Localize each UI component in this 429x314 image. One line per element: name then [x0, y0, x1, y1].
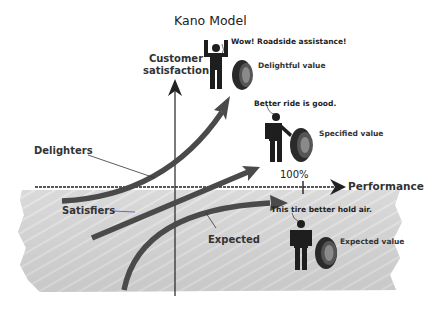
tire-icon-delightful — [232, 60, 253, 90]
person-hand-on-tire-icon — [265, 106, 292, 162]
expected-label: Expected — [208, 235, 260, 245]
satisfiers-label: Satisfiers — [62, 206, 115, 216]
delightful-value-label: Delightful value — [258, 62, 325, 70]
delighters-label: Delighters — [34, 146, 93, 156]
x-axis-label: Performance — [348, 181, 424, 192]
specified-quote: Better ride is good. — [254, 100, 336, 108]
delighters-leader-line — [88, 155, 155, 178]
specified-value-label: Specified value — [319, 130, 383, 138]
tire-icon-specified — [290, 128, 313, 162]
x-axis-tick-label: 100% — [280, 170, 309, 180]
diagram-canvas — [0, 0, 429, 314]
tire-icon-expected — [315, 237, 337, 269]
y-axis-label: Customer satisfaction — [139, 53, 213, 77]
expected-value-label: Expected value — [340, 238, 404, 246]
expected-quote: This tire better hold air. — [271, 206, 372, 214]
delightful-quote: Wow! Roadside assistance! — [231, 38, 347, 46]
diagram-title: Kano Model — [174, 15, 247, 28]
kano-model-diagram: Kano Model Customer satisfaction Perform… — [0, 0, 429, 314]
